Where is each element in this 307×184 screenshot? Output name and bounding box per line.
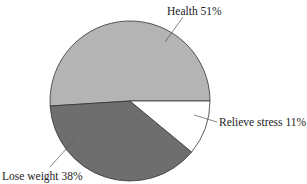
slice-label-lose-weight: Lose weight 38% (2, 170, 83, 183)
pie-chart: Health 51% Relieve stress 11% Lose weigh… (0, 0, 307, 184)
pie-slice-health (50, 21, 210, 106)
slice-label-relieve-stress: Relieve stress 11% (219, 116, 307, 128)
slice-label-health: Health 51% (167, 5, 222, 17)
pie-slices (50, 21, 210, 181)
